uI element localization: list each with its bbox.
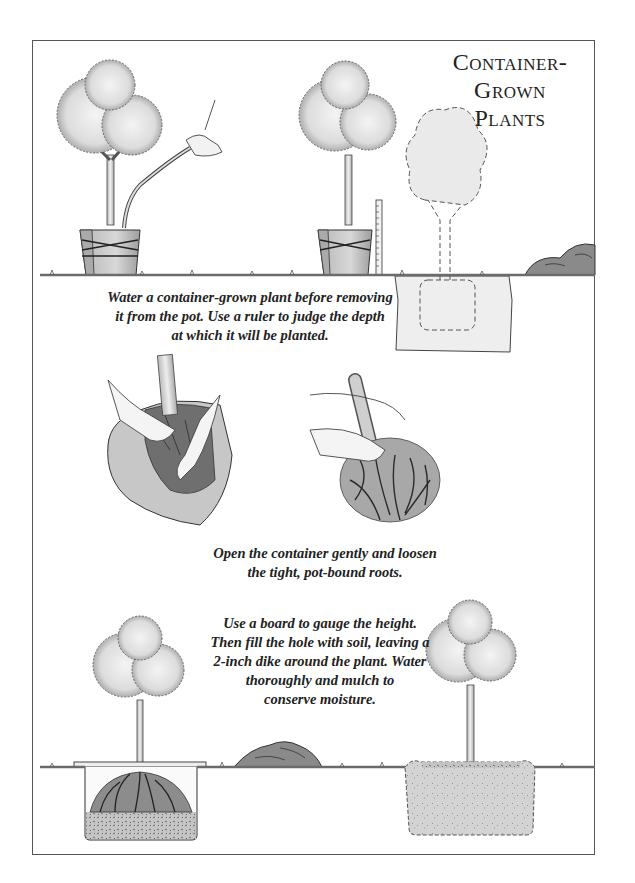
page-title: Container-Grown Plants bbox=[420, 48, 600, 132]
ruler-depth-check bbox=[299, 61, 396, 275]
soil-mound-bottom bbox=[234, 742, 322, 767]
caption-line: the tight, pot-bound roots. bbox=[185, 563, 465, 582]
caption-line: it from the pot. Use a ruler to judge th… bbox=[80, 307, 420, 326]
caption-board-gauge: Use a board to gauge the height. Then fi… bbox=[200, 614, 440, 709]
caption-line: Water a container-grown plant before rem… bbox=[80, 288, 420, 307]
opening-container bbox=[108, 354, 232, 525]
title-line-1: Container-Grown bbox=[420, 48, 600, 104]
caption-line: conserve moisture. bbox=[200, 690, 440, 709]
title-line-2: Plants bbox=[420, 104, 600, 132]
illustration-canvas bbox=[0, 0, 635, 883]
caption-line: Use a board to gauge the height. bbox=[200, 614, 440, 633]
soil-mound-top bbox=[525, 244, 595, 275]
caption-line: 2-inch dike around the plant. Water bbox=[200, 652, 440, 671]
caption-line: at which it will be planted. bbox=[80, 326, 420, 345]
caption-loosen-roots: Open the container gently and loosen the… bbox=[185, 544, 465, 582]
caption-line: thoroughly and mulch to bbox=[200, 671, 440, 690]
loosening-roots bbox=[310, 380, 440, 522]
board-gauge-hole bbox=[74, 616, 206, 840]
caption-line: Open the container gently and loosen bbox=[185, 544, 465, 563]
caption-watering: Water a container-grown plant before rem… bbox=[80, 288, 420, 345]
watering-potted-plant bbox=[57, 60, 222, 275]
caption-line: Then fill the hole with soil, leaving a bbox=[200, 633, 440, 652]
